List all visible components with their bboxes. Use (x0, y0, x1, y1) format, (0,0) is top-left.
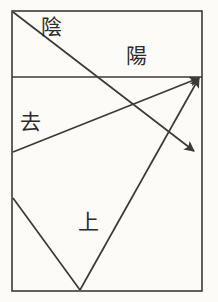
diagram-canvas: 陰 陽 去 上 (0, 0, 218, 302)
outer-rectangle (12, 11, 202, 291)
label-qu: 去 (20, 112, 41, 133)
label-yin: 陰 (41, 17, 62, 38)
diagram-svg (0, 0, 218, 302)
label-shang: 上 (78, 212, 99, 233)
left-descending-segment (13, 198, 80, 290)
label-yang: 陽 (126, 46, 147, 67)
